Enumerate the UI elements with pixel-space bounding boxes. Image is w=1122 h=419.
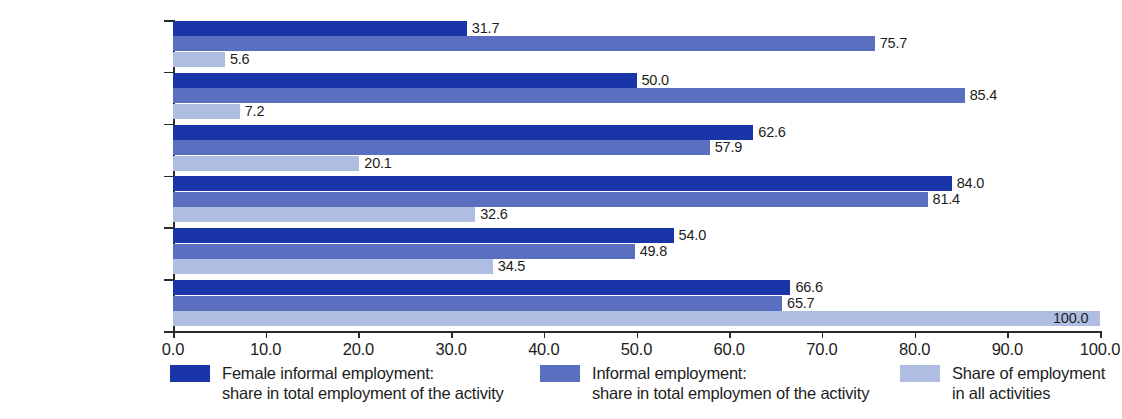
bar <box>173 259 493 274</box>
legend-label: Female informal employment: share in tot… <box>222 363 504 403</box>
bar <box>173 311 1100 326</box>
plot-area: Transportation31.775.75.6Construction50.… <box>173 20 1100 331</box>
category-group: Construction50.085.47.2 <box>173 72 1100 124</box>
bar <box>173 73 637 88</box>
bar-value-label: 81.4 <box>928 192 960 207</box>
bar-value-label: 54.0 <box>674 228 706 243</box>
bar-value-label: 5.6 <box>225 52 250 67</box>
x-axis-tick <box>729 331 731 338</box>
bar-chart: Transportation31.775.75.6Construction50.… <box>0 0 1122 419</box>
category-group: Manufacturing62.657.920.1 <box>173 124 1100 176</box>
bar <box>173 140 710 155</box>
bar-value-label: 32.6 <box>475 207 507 222</box>
x-axis-tick-label: 60.0 <box>714 340 745 359</box>
legend-item[interactable]: Female informal employment: share in tot… <box>170 363 504 403</box>
category-group: All non-agricultural activities66.665.71… <box>173 279 1100 331</box>
legend-label: Informal employment: share in total empl… <box>592 363 869 403</box>
y-axis-tick <box>164 176 173 178</box>
x-axis-tick <box>266 331 268 338</box>
x-axis-tick-label: 30.0 <box>435 340 466 359</box>
bar <box>173 244 635 259</box>
x-axis-tick <box>822 331 824 338</box>
bar <box>173 52 225 67</box>
legend-item[interactable]: Share of employment in all activities <box>900 363 1105 403</box>
x-axis-tick <box>173 331 175 338</box>
bar-value-label: 50.0 <box>637 73 669 88</box>
x-axis-tick <box>915 331 917 338</box>
y-axis-tick <box>164 72 173 74</box>
x-axis-tick-label: 70.0 <box>806 340 837 359</box>
category-group: Trade84.081.432.6 <box>173 176 1100 228</box>
y-axis-tick <box>164 20 173 22</box>
bar <box>173 104 240 119</box>
bar <box>173 21 467 36</box>
x-axis-tick-label: 100.0 <box>1080 340 1120 359</box>
bar-value-label: 84.0 <box>952 176 984 191</box>
x-axis-tick-label: 90.0 <box>992 340 1023 359</box>
legend-swatch-female-informal <box>170 365 210 382</box>
bar-value-label: 65.7 <box>782 296 814 311</box>
x-axis-tick-label: 80.0 <box>899 340 930 359</box>
category-group: Services other than trade or transportat… <box>173 227 1100 279</box>
chart-legend: Female informal employment: share in tot… <box>0 363 1122 419</box>
bar <box>173 36 875 51</box>
x-axis-tick-label: 10.0 <box>250 340 281 359</box>
bar <box>173 176 952 191</box>
bar-value-label: 49.8 <box>635 244 667 259</box>
bar <box>173 192 928 207</box>
y-axis-tick <box>164 124 173 126</box>
x-axis-tick-label: 0.0 <box>162 340 184 359</box>
bar-value-label: 75.7 <box>875 36 907 51</box>
bar-value-label: 66.6 <box>790 280 822 295</box>
y-axis-tick <box>164 279 173 281</box>
x-axis-tick <box>1007 331 1009 338</box>
x-axis-tick <box>451 331 453 338</box>
legend-swatch-informal <box>540 365 580 382</box>
bar <box>173 207 475 222</box>
y-axis-tick <box>164 331 173 333</box>
bar <box>173 156 359 171</box>
x-axis-tick <box>358 331 360 338</box>
legend-label: Share of employment in all activities <box>952 363 1105 403</box>
x-axis-tick <box>637 331 639 338</box>
legend-swatch-share-all <box>900 365 940 382</box>
bar <box>173 228 674 243</box>
bar <box>173 280 790 295</box>
bar-value-label: 7.2 <box>240 104 265 119</box>
bar-value-label: 85.4 <box>965 88 997 103</box>
bar-value-label: 34.5 <box>493 259 525 274</box>
legend-item[interactable]: Informal employment: share in total empl… <box>540 363 869 403</box>
x-axis-tick <box>1100 331 1102 338</box>
bar-value-label: 62.6 <box>753 125 785 140</box>
x-axis-tick <box>544 331 546 338</box>
bar-value-label: 100.0 <box>1048 311 1088 326</box>
bar <box>173 125 753 140</box>
x-axis-tick-label: 20.0 <box>343 340 374 359</box>
bar-value-label: 31.7 <box>467 21 499 36</box>
bar-value-label: 57.9 <box>710 140 742 155</box>
x-axis-tick-label: 50.0 <box>621 340 652 359</box>
bar <box>173 88 965 103</box>
y-axis-tick <box>164 227 173 229</box>
x-axis-tick-label: 40.0 <box>528 340 559 359</box>
bar <box>173 296 782 311</box>
category-group: Transportation31.775.75.6 <box>173 20 1100 72</box>
bar-value-label: 20.1 <box>359 156 391 171</box>
